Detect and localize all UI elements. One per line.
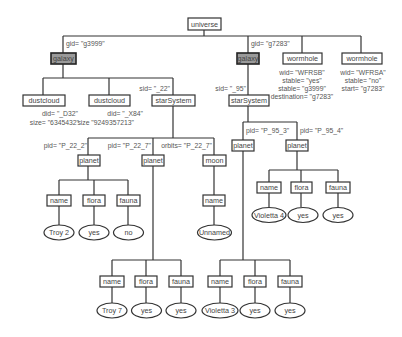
node-label: planet [287, 141, 307, 150]
node-label: dustcloud [29, 96, 60, 105]
node-planet-p-22-2: planet [78, 155, 100, 166]
svg-text:yes: yes [141, 306, 153, 315]
attr-pid-p-22-2: pid= "P_22_2" [44, 142, 88, 150]
attr-sid-95: sid= "_95" [215, 85, 246, 93]
svg-text:yes: yes [88, 228, 100, 237]
value-yes: yes [288, 208, 318, 223]
svg-text:flora: flora [295, 183, 309, 192]
value-yes: yes [240, 303, 270, 318]
node-label: starSystem [156, 96, 192, 105]
attr-stable-g3999: stable= "g3999" [278, 85, 326, 93]
node-label: planet [233, 141, 253, 150]
value-no: no [114, 225, 144, 240]
svg-text:name: name [103, 277, 121, 286]
node-starsystem-22: starSystem [152, 95, 195, 106]
attr-gid-g3999: gid= "g3999" [66, 40, 105, 48]
xml-tree-diagram: universe galaxy galaxy wormhole wormhole… [0, 0, 402, 337]
node-fauna: fauna [326, 182, 350, 193]
node-name: name [100, 276, 124, 287]
node-universe: universe [188, 18, 221, 30]
node-fauna: fauna [169, 276, 193, 287]
value-yes: yes [132, 303, 162, 318]
node-dustcloud-x84: dustcloud [89, 95, 130, 106]
svg-text:fauna: fauna [329, 183, 347, 192]
node-dustcloud-d32: dustcloud [23, 95, 65, 106]
svg-text:name: name [205, 196, 223, 205]
attr-size-6345432: size= "6345432" [30, 119, 80, 126]
svg-text:fauna: fauna [281, 277, 299, 286]
svg-text:Troy 7: Troy 7 [102, 306, 122, 315]
value-troy-7: Troy 7 [97, 303, 127, 318]
attr-destination-g7283: destination= "g7283" [271, 93, 334, 101]
node-label: planet [143, 156, 163, 165]
value-yes: yes [275, 303, 305, 318]
value-violetta-3: Violetta 3 [202, 303, 238, 318]
svg-text:yes: yes [297, 211, 309, 220]
node-flora: flora [291, 182, 312, 193]
node-name: name [203, 195, 225, 206]
node-planet-p-95-3: planet [232, 140, 254, 151]
attr-start-g7283: start= "g7283" [342, 85, 385, 93]
node-flora: flora [135, 276, 157, 287]
node-fauna: fauna [117, 195, 140, 206]
node-name: name [257, 182, 281, 193]
node-label: universe [191, 20, 218, 29]
attr-did-x84: did= "_X84" [107, 110, 143, 118]
attr-pid-p-95-3: pid= "P_95_3" [246, 127, 290, 135]
svg-text:flora: flora [248, 277, 262, 286]
svg-text:name: name [211, 277, 229, 286]
svg-text:yes: yes [249, 306, 261, 315]
node-label: galaxy [53, 54, 74, 63]
attr-pid-p-22-7: pid= "P_22_7" [108, 142, 152, 150]
svg-text:Unnamed: Unnamed [199, 228, 230, 237]
node-flora: flora [83, 195, 105, 206]
svg-text:yes: yes [175, 306, 187, 315]
svg-text:yes: yes [332, 211, 344, 220]
node-label: wormhole [286, 54, 318, 63]
attr-stable-no: stable= "no" [345, 77, 382, 84]
svg-text:flora: flora [139, 277, 153, 286]
node-wormhole-wfrsb: wormhole [283, 53, 322, 64]
value-unnamed: Unnamed [198, 225, 232, 240]
node-planet-p-22-7: planet [142, 155, 164, 166]
node-wormhole-wfrsa: wormhole [342, 53, 382, 64]
node-label: starSystem [231, 96, 267, 105]
svg-text:Troy 2: Troy 2 [49, 228, 69, 237]
attr-wid-wfrsb: wid= "WFRSB" [278, 69, 325, 76]
attr-stable-yes: stable= "yes" [282, 77, 322, 85]
node-label: dustcloud [94, 96, 125, 105]
node-name: name [208, 276, 232, 287]
svg-text:no: no [125, 228, 133, 237]
node-label: moon [206, 156, 224, 165]
node-galaxy-g7283: galaxy [237, 53, 259, 64]
value-yes: yes [323, 208, 353, 223]
attribute-labels: gid= "g3999" gid= "g7283" wid= "WFRSB" s… [30, 40, 387, 150]
svg-text:name: name [50, 196, 68, 205]
svg-text:name: name [260, 183, 278, 192]
value-yes: yes [166, 303, 196, 318]
node-name: name [47, 195, 71, 206]
node-fauna: fauna [278, 276, 302, 287]
attr-did-d32: did= "_D32" [42, 110, 79, 118]
attr-sid-22: sid= "_22" [139, 85, 170, 93]
node-flora: flora [244, 276, 266, 287]
attr-size-9249357213: size "9249357213" [77, 119, 134, 126]
svg-text:Violetta 3: Violetta 3 [205, 306, 235, 315]
attr-orbits-p-22-7: orbits= "P_22_7" [161, 142, 212, 150]
value-troy-2: Troy 2 [44, 225, 74, 240]
svg-text:flora: flora [87, 196, 101, 205]
node-galaxy-g3999: galaxy [51, 53, 76, 64]
node-moon: moon [203, 155, 226, 166]
svg-text:fauna: fauna [120, 196, 138, 205]
node-label: planet [79, 156, 99, 165]
svg-text:fauna: fauna [172, 277, 190, 286]
attr-gid-g7283: gid= "g7283" [251, 40, 290, 48]
node-starsystem-95: starSystem [229, 95, 269, 106]
attr-wid-wfrsa: wid= "WFRSA" [339, 69, 386, 76]
value-yes: yes [79, 225, 109, 240]
node-label: wormhole [345, 54, 377, 63]
node-planet-p-95-4: planet [286, 140, 308, 151]
value-violetta-4: Violetta 4 [252, 208, 286, 223]
node-label: galaxy [238, 54, 259, 63]
svg-text:yes: yes [284, 306, 296, 315]
